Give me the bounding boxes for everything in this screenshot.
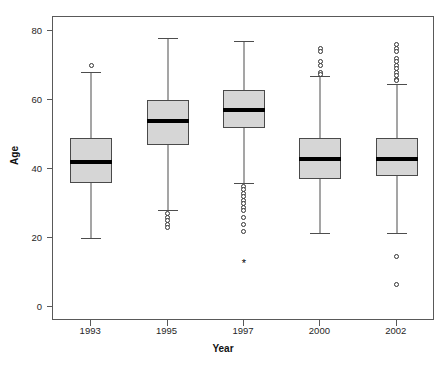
outlier-point — [318, 63, 323, 68]
outlier-point — [165, 225, 170, 230]
x-tick-label-2000: 2000 — [309, 325, 330, 336]
outlier-point — [394, 49, 399, 54]
plot-area — [52, 16, 434, 320]
whisker-cap-upper — [81, 72, 101, 73]
whisker-lower — [396, 176, 397, 233]
outlier-point — [89, 63, 94, 68]
whisker-lower — [91, 183, 92, 238]
x-tick-mark — [90, 320, 91, 326]
x-tick-mark — [167, 320, 168, 326]
whisker-lower — [320, 179, 321, 233]
whisker-cap-upper — [158, 38, 178, 39]
x-tick-label-1993: 1993 — [80, 325, 101, 336]
median-line — [299, 157, 341, 161]
boxplot-figure: Age Year 020406080 19931995199720002002 — [0, 0, 446, 370]
whisker-cap-lower — [81, 238, 101, 239]
whisker-lower — [243, 128, 244, 183]
outlier-point — [394, 282, 399, 287]
outlier-point — [241, 208, 246, 213]
x-tick-mark — [243, 320, 244, 326]
whisker-upper — [91, 72, 92, 138]
box-2000 — [282, 17, 358, 319]
whisker-cap-upper — [387, 84, 407, 85]
x-tick-label-2002: 2002 — [385, 325, 406, 336]
box-1995 — [129, 17, 205, 319]
y-tick-label: 60 — [20, 93, 42, 104]
outlier-point — [318, 49, 323, 54]
box-1997 — [206, 17, 282, 319]
whisker-upper — [243, 41, 244, 89]
outlier-point — [394, 78, 399, 83]
x-tick-label-1995: 1995 — [156, 325, 177, 336]
whisker-cap-lower — [310, 233, 330, 234]
whisker-upper — [167, 38, 168, 100]
box-1993 — [53, 17, 129, 319]
median-line — [376, 157, 418, 161]
y-axis-title: Age — [9, 146, 20, 165]
outlier-point — [394, 254, 399, 259]
y-tick-label: 0 — [20, 301, 42, 312]
x-tick-mark — [396, 320, 397, 326]
x-axis-title: Year — [0, 343, 446, 354]
median-line — [147, 119, 189, 123]
whisker-lower — [167, 145, 168, 211]
outlier-point — [318, 72, 323, 77]
whisker-cap-lower — [387, 233, 407, 234]
extreme-point — [241, 263, 246, 268]
box-2002 — [359, 17, 435, 319]
x-tick-mark — [319, 320, 320, 326]
whisker-cap-upper — [234, 41, 254, 42]
x-tick-label-1997: 1997 — [232, 325, 253, 336]
outlier-point — [241, 222, 246, 227]
outlier-point — [241, 229, 246, 234]
median-line — [223, 108, 265, 112]
whisker-upper — [396, 84, 397, 138]
outlier-point — [241, 215, 246, 220]
y-tick-label: 80 — [20, 24, 42, 35]
whisker-upper — [320, 76, 321, 138]
y-tick-label: 20 — [20, 232, 42, 243]
median-line — [70, 160, 112, 164]
y-tick-label: 40 — [20, 163, 42, 174]
